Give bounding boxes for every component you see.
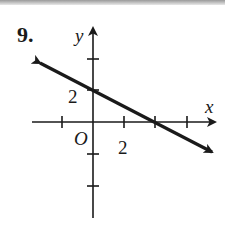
x-axis — [32, 116, 215, 128]
graph: y x O 2 2 — [0, 0, 225, 229]
origin-label: O — [74, 128, 88, 149]
y-axis — [87, 28, 99, 218]
y-tick-label-2: 2 — [68, 86, 78, 107]
y-axis-label: y — [73, 25, 84, 46]
x-axis-label: x — [204, 96, 214, 117]
x-tick-label-2: 2 — [118, 137, 128, 158]
